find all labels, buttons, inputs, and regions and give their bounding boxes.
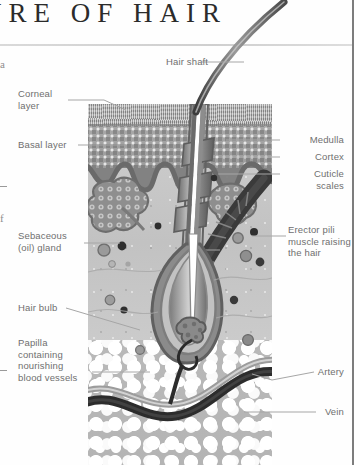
label-cuticle-line2: scales (266, 180, 344, 192)
label-sebaceous-line1: Sebaceous (18, 230, 88, 242)
label-hair-shaft: Hair shaft (166, 56, 216, 68)
label-cuticle-scales: Cuticle scales (266, 168, 344, 191)
label-corneal-layer-line1: Corneal (18, 88, 78, 100)
label-corneal-layer: Corneal layer (18, 88, 78, 111)
label-cortex: Cortex (266, 151, 344, 163)
label-erector-line1: Erector pili (288, 224, 362, 236)
label-papilla-line3: nourishing (18, 360, 94, 372)
label-corneal-layer-line2: layer (18, 100, 78, 112)
page-root: URE OF HAIR a f (0, 0, 362, 465)
label-erector-line3: the hair (288, 247, 362, 259)
label-papilla-line2: containing (18, 349, 94, 361)
label-sebaceous-gland: Sebaceous (oil) gland (18, 230, 88, 253)
label-erector-line2: muscle raising (288, 236, 362, 248)
label-basal-layer: Basal layer (18, 139, 88, 151)
label-vein: Vein (266, 406, 344, 418)
label-sebaceous-line2: (oil) gland (18, 242, 88, 254)
label-cuticle-line1: Cuticle (266, 168, 344, 180)
label-medulla: Medulla (266, 134, 344, 146)
label-artery: Artery (266, 366, 344, 378)
label-papilla-line1: Papilla (18, 337, 94, 349)
label-erector-pili: Erector pili muscle raising the hair (288, 224, 362, 259)
label-papilla-line4: blood vessels (18, 372, 94, 384)
label-hair-bulb: Hair bulb (18, 302, 78, 314)
label-papilla: Papilla containing nourishing blood vess… (18, 337, 94, 383)
page-edge-margin (354, 0, 362, 465)
